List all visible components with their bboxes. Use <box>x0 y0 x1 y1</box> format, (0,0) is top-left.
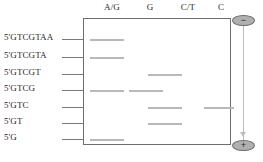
band-ct-gtc <box>148 107 182 109</box>
electrode-wire <box>243 22 244 140</box>
lane-header-g: G <box>130 2 170 12</box>
leader-tick-gtcgta <box>62 57 83 58</box>
sequence-label-gtcgtaa: 5'GTCGTAA <box>4 32 53 42</box>
leader-tick-gtcgt <box>62 74 83 75</box>
band-ag-gtcgtaa <box>90 39 124 41</box>
sequence-label-gtc: 5'GTC <box>4 100 29 110</box>
band-ag-g <box>90 139 124 141</box>
negative-electrode-icon: − <box>232 15 255 26</box>
leader-tick-g <box>62 139 83 140</box>
leader-tick-gtcg <box>62 90 83 91</box>
band-ct-gt <box>148 123 182 125</box>
sequence-label-gtcgt: 5'GTCGT <box>4 67 41 77</box>
sequence-label-gt: 5'GT <box>4 116 23 126</box>
migration-arrow-icon <box>240 132 246 137</box>
band-g-gtcg <box>129 90 163 92</box>
gel-box <box>83 18 231 145</box>
band-c-gtc <box>204 107 234 109</box>
lane-header-c: C <box>201 2 241 12</box>
lane-header-ag: A/G <box>92 2 132 12</box>
band-ag-gtcg <box>90 90 124 92</box>
sequence-label-g: 5'G <box>4 132 17 142</box>
band-ag-gtcgta <box>90 57 124 59</box>
leader-tick-gtc <box>62 107 83 108</box>
leader-tick-gt <box>62 123 83 124</box>
positive-electrode-icon: + <box>232 140 255 151</box>
gel-electrophoresis-figure: A/G G C/T C 5'GTCGTAA 5'GTCGTA 5'GTCGT 5… <box>0 0 263 162</box>
sequence-label-gtcg: 5'GTCG <box>4 83 35 93</box>
sequence-label-gtcgta: 5'GTCGTA <box>4 50 47 60</box>
band-ct-gtcgt <box>148 74 182 76</box>
leader-tick-gtcgtaa <box>62 39 83 40</box>
